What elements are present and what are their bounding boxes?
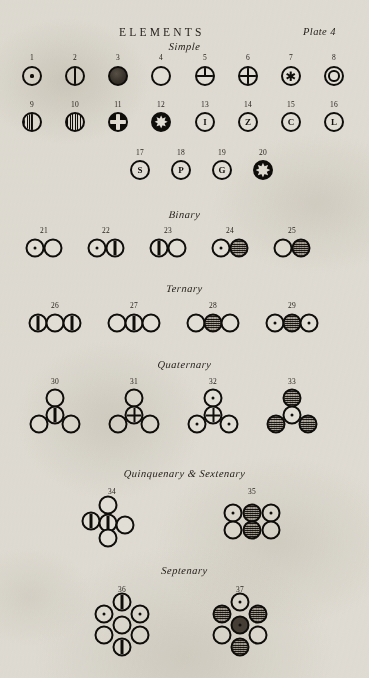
atom xyxy=(142,314,161,333)
symbol-number-33: 33 xyxy=(288,377,296,386)
symbol-number-13: 13 xyxy=(201,100,209,109)
symbol-letter-13: I xyxy=(203,118,207,127)
element-symbol-13[interactable]: I xyxy=(195,112,215,132)
element-symbol-20[interactable]: ✸ xyxy=(253,160,273,180)
atom xyxy=(113,638,132,657)
element-symbol-4[interactable] xyxy=(151,66,171,86)
atom xyxy=(231,638,250,657)
element-symbol-12[interactable]: ✸ xyxy=(151,112,171,132)
symbol-number-29: 29 xyxy=(288,301,296,310)
atom xyxy=(99,529,118,548)
symbol-number-20: 20 xyxy=(259,148,267,157)
atom xyxy=(95,605,114,624)
symbol-number-24: 24 xyxy=(226,226,234,235)
symbol-letter-19: G xyxy=(218,166,225,175)
atom xyxy=(213,605,232,624)
symbol-number-27: 27 xyxy=(130,301,138,310)
section-label-simple: Simple xyxy=(0,41,369,52)
atom xyxy=(267,415,286,434)
symbol-number-22: 22 xyxy=(102,226,110,235)
atom xyxy=(63,314,82,333)
symbol-number-23: 23 xyxy=(164,226,172,235)
element-symbol-10[interactable] xyxy=(65,112,85,132)
cross-h xyxy=(110,120,126,124)
symbol-number-8: 8 xyxy=(332,53,336,62)
symbol-letter-15: C xyxy=(288,118,295,127)
symbol-number-7: 7 xyxy=(289,53,293,62)
star-icon: ✱ xyxy=(286,70,297,83)
atom xyxy=(116,516,135,535)
atom xyxy=(26,239,45,258)
symbol-number-15: 15 xyxy=(287,100,295,109)
atom xyxy=(221,314,240,333)
atom xyxy=(220,415,239,434)
burst-icon: ✸ xyxy=(255,161,271,180)
element-symbol-18[interactable]: P xyxy=(171,160,191,180)
atom xyxy=(106,239,125,258)
symbol-number-12: 12 xyxy=(157,100,165,109)
symbol-number-32: 32 xyxy=(209,377,217,386)
atom xyxy=(168,239,187,258)
symbol-letter-18: P xyxy=(178,166,184,175)
atom xyxy=(274,239,293,258)
atom xyxy=(131,605,150,624)
symbol-number-9: 9 xyxy=(30,100,34,109)
symbol-number-3: 3 xyxy=(116,53,120,62)
element-symbol-19[interactable]: G xyxy=(212,160,232,180)
atom xyxy=(150,239,169,258)
atom xyxy=(131,626,150,645)
symbol-number-6: 6 xyxy=(246,53,250,62)
element-symbol-9[interactable] xyxy=(22,112,42,132)
atom xyxy=(249,626,268,645)
atom xyxy=(109,415,128,434)
symbol-number-4: 4 xyxy=(159,53,163,62)
symbol-number-1: 1 xyxy=(30,53,34,62)
symbol-number-14: 14 xyxy=(244,100,252,109)
element-symbol-16[interactable]: L xyxy=(324,112,344,132)
atom xyxy=(62,415,81,434)
vline xyxy=(31,114,33,130)
symbol-number-35: 35 xyxy=(248,487,256,496)
element-symbol-7[interactable]: ✱ xyxy=(281,66,301,86)
symbol-number-26: 26 xyxy=(51,301,59,310)
atom xyxy=(231,593,250,612)
atom xyxy=(88,239,107,258)
element-symbol-17[interactable]: S xyxy=(130,160,150,180)
element-symbol-1[interactable] xyxy=(22,66,42,86)
section-label-quinquenary-sextenary: Quinquenary & Sextenary xyxy=(0,468,369,479)
element-symbol-3[interactable] xyxy=(108,66,128,86)
atom xyxy=(188,415,207,434)
element-symbol-14[interactable]: Z xyxy=(238,112,258,132)
section-label-septenary: Septenary xyxy=(0,565,369,576)
symbol-number-2: 2 xyxy=(73,53,77,62)
element-symbol-8[interactable] xyxy=(324,66,344,86)
atom xyxy=(95,626,114,645)
atom xyxy=(299,415,318,434)
atom xyxy=(300,314,319,333)
page-title: ELEMENTS xyxy=(119,26,205,38)
atom xyxy=(113,593,132,612)
element-symbol-15[interactable]: C xyxy=(281,112,301,132)
element-symbol-11[interactable] xyxy=(108,112,128,132)
element-symbol-6[interactable] xyxy=(238,66,258,86)
symbol-letter-16: L xyxy=(331,118,337,127)
atom xyxy=(262,521,281,540)
symbol-number-16: 16 xyxy=(330,100,338,109)
atom xyxy=(243,521,262,540)
section-label-quaternary: Quaternary xyxy=(0,359,369,370)
atom xyxy=(231,616,250,635)
symbol-number-31: 31 xyxy=(130,377,138,386)
atom xyxy=(292,239,311,258)
symbol-number-11: 11 xyxy=(114,100,122,109)
atom xyxy=(113,616,132,635)
burst-icon: ✸ xyxy=(154,114,168,131)
plate-sheet: ELEMENTS Plate 4 Simple 1 2 3 4 5 6 7 8 … xyxy=(0,0,369,678)
element-symbol-2[interactable] xyxy=(65,66,85,86)
symbol-number-18: 18 xyxy=(177,148,185,157)
symbol-number-25: 25 xyxy=(288,226,296,235)
symbol-number-21: 21 xyxy=(40,226,48,235)
symbol-number-30: 30 xyxy=(51,377,59,386)
atom xyxy=(213,626,232,645)
symbol-number-19: 19 xyxy=(218,148,226,157)
element-symbol-5[interactable] xyxy=(195,66,215,86)
